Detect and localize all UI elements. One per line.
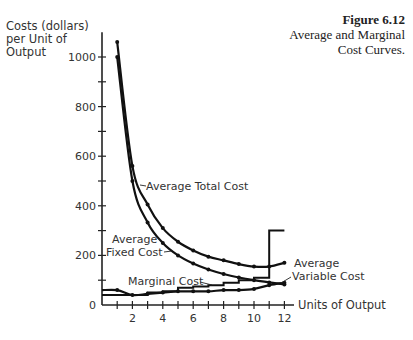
data-point — [115, 55, 119, 59]
data-point — [146, 220, 150, 224]
x-tick-label: 8 — [220, 312, 227, 325]
data-point — [176, 253, 180, 257]
data-point — [191, 248, 195, 252]
label-average-fixed-cost-line1: Average — [112, 233, 157, 246]
label-average-fixed-cost-line2: Fixed Cost — [106, 246, 163, 259]
data-point — [252, 265, 256, 269]
data-point — [222, 258, 226, 262]
label-marginal-cost: Marginal Cost — [128, 275, 204, 288]
leader-average-fixed-cost — [164, 251, 172, 252]
data-point — [191, 289, 195, 293]
data-point — [237, 275, 241, 279]
x-tick-label: 2 — [129, 312, 136, 325]
data-point — [206, 289, 210, 293]
label-average-variable-cost-line2: Variable Cost — [292, 270, 365, 283]
data-point — [130, 179, 134, 183]
data-point — [237, 288, 241, 292]
data-point — [206, 268, 210, 272]
data-point — [237, 262, 241, 266]
data-point — [206, 255, 210, 259]
x-tick-label: 12 — [277, 312, 291, 325]
data-point — [252, 287, 256, 291]
label-average-total-cost: Average Total Cost — [146, 180, 249, 193]
data-point — [176, 240, 180, 244]
y-tick-label: 800 — [75, 101, 96, 114]
cost-curves-chart: 0200400600800100024681012 Average Total … — [0, 0, 413, 340]
data-point — [146, 203, 150, 207]
data-point — [267, 283, 271, 287]
data-point — [282, 261, 286, 265]
x-tick-label: 4 — [159, 312, 166, 325]
data-point — [115, 288, 119, 292]
data-point — [191, 262, 195, 266]
y-tick-label: 200 — [75, 249, 96, 262]
data-point — [161, 226, 165, 230]
y-tick-label: 400 — [75, 200, 96, 213]
x-tick-label: 10 — [247, 312, 261, 325]
y-tick-label: 1000 — [68, 51, 96, 64]
data-point — [222, 272, 226, 276]
data-point — [161, 241, 165, 245]
data-point — [115, 40, 119, 44]
label-average-variable-cost-line1: Average — [294, 257, 339, 270]
x-tick-label: 6 — [190, 312, 197, 325]
data-point — [222, 288, 226, 292]
x-axis-label: Units of Output — [298, 298, 386, 312]
y-tick-label: 600 — [75, 150, 96, 163]
y-tick-label: 0 — [89, 299, 96, 312]
